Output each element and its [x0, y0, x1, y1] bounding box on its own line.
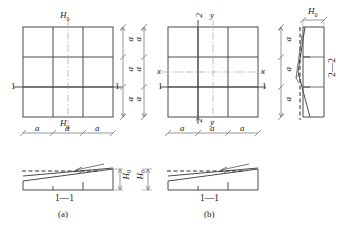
- plan-b-dim-left-2: a: [134, 67, 143, 72]
- section-b-label: 1—1: [200, 194, 219, 204]
- section-a-height-label: H0: [122, 170, 132, 180]
- plan-b-dim-left-3: a: [134, 97, 143, 102]
- section-22-dim-width: [300, 17, 327, 23]
- section-22-extension-lines: [303, 20, 324, 27]
- plan-b-dim-bottom-2: a: [210, 124, 215, 133]
- plan-b-dim-bottom-3: a: [240, 124, 245, 133]
- plan-a-dim-bottom-1: a: [35, 124, 40, 133]
- plan-b-top-label-y: y: [210, 11, 214, 20]
- plan-a-dim-bottom-2: a: [65, 124, 70, 133]
- plan-b-right-label-x: x: [261, 67, 265, 76]
- caption-a: (a): [58, 210, 68, 219]
- plan-a-dim-bottom-3: a: [95, 124, 100, 133]
- section-22-label: 2—2: [328, 58, 338, 77]
- technical-drawing: H0 H0 1 1 a a a a a a 1—1 H0 (a) 2 y 2 y…: [0, 0, 347, 230]
- plan-b-left-label-1: 1: [158, 82, 163, 91]
- plan-b-right-label-1: 1: [262, 82, 267, 91]
- plan-b-dim-right-1: a: [284, 37, 293, 42]
- section-22-chord-upper: [298, 27, 305, 72]
- section-a-label: 1—1: [55, 194, 74, 204]
- section-22-width-label: H0: [308, 7, 318, 18]
- plan-a-section-label-right: 1: [115, 82, 120, 91]
- plan-b-top-label-2: 2: [195, 13, 204, 18]
- plan-b-dim-right-2: a: [284, 67, 293, 72]
- plan-b-dim-left-1: a: [134, 37, 143, 42]
- section-b-height-label: H0: [136, 170, 146, 180]
- plan-b-left-label-x: x: [157, 67, 161, 76]
- plan-a-top-label: H0: [60, 11, 70, 22]
- drawing-canvas: [0, 0, 347, 230]
- caption-b: (b): [204, 210, 215, 219]
- plan-a-section-label-left: 1: [11, 82, 16, 91]
- plan-b-bottom-label-2: 2: [195, 118, 204, 123]
- plan-b-dim-right-3: a: [284, 97, 293, 102]
- plan-b-dim-bottom-1: a: [180, 124, 185, 133]
- section-22-geometry: [298, 27, 324, 117]
